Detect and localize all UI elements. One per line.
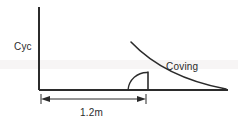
diagram-canvas: Cyc Coving 1.2m	[0, 0, 238, 128]
dimension-arrow-left-icon	[41, 96, 50, 102]
dimension-label: 1.2m	[80, 107, 103, 118]
quarter-arc	[128, 72, 148, 90]
dimension-arrow-right-icon	[137, 96, 146, 102]
cyc-coving-diagram: Cyc Coving 1.2m	[0, 0, 238, 128]
cyc-label: Cyc	[14, 41, 32, 52]
coving-label: Coving	[166, 61, 198, 72]
